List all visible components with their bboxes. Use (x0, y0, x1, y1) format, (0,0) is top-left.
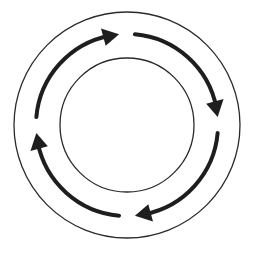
top-arrow-shaft (36, 36, 109, 117)
top-arrow-head-icon (101, 28, 119, 45)
left-arrow-shaft (38, 142, 119, 215)
left-arrow-head-icon (30, 133, 47, 151)
bottom-arrow-shaft (144, 133, 217, 214)
right-arrow-head-icon (206, 99, 223, 117)
right-arrow-shaft (135, 34, 216, 107)
inner-circle (60, 58, 194, 192)
outer-circle (14, 12, 240, 238)
cycle-diagram-canvas (0, 0, 254, 253)
cycle-diagram (0, 0, 254, 253)
bottom-arrow-head-icon (135, 204, 153, 221)
